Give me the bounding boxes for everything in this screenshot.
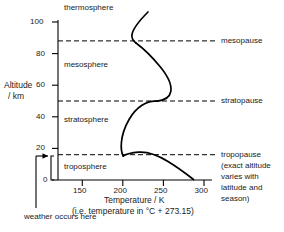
y-tick-label-20: 20 [36, 143, 45, 153]
curve-thermosphere [132, 12, 148, 43]
boundary-label-mesopause: mesopause [221, 36, 262, 46]
layer-label-troposphere: troposphere [64, 162, 107, 172]
layer-label-mesosphere: mesosphere [64, 60, 108, 70]
tropopause-note-line-3: latitude and [221, 183, 262, 193]
tropopause-note-line-4: season) [221, 194, 249, 204]
curve-stratosphere [121, 101, 157, 156]
layer-label-stratosphere: stratosphere [64, 115, 108, 125]
boundary-label-tropopause: tropopause [221, 150, 261, 160]
x-tick-label-300: 300 [195, 186, 208, 196]
curve-troposphere [123, 152, 193, 179]
x-tick-label-150: 150 [73, 186, 86, 196]
atmosphere-temperature-profile-chart: 100 80 60 40 20 0 150 200 250 300 Altitu… [0, 0, 284, 232]
y-axis-title: Altitude [4, 81, 32, 91]
y-tick-label-80: 80 [36, 49, 45, 59]
boundary-label-stratopause: stratopause [221, 96, 263, 106]
tropopause-note-line-1: (exact altitude [221, 161, 271, 171]
x-axis-title: Temperature / K [104, 196, 164, 206]
y-tick-label-60: 60 [36, 80, 45, 90]
layer-label-thermosphere: thermosphere [64, 3, 113, 13]
curve-mesosphere [136, 43, 171, 101]
y-tick-label-40: 40 [36, 112, 45, 122]
x-axis-ticks [82, 180, 204, 186]
weather-occurs-here-note: weather occurs here [24, 212, 96, 222]
y-tick-label-100: 100 [30, 17, 43, 27]
tropopause-note-line-2: varies with [221, 172, 259, 182]
weather-arrow-head [43, 153, 49, 159]
y-axis-unit: / km [8, 92, 24, 102]
y-tick-label-0: 0 [43, 175, 47, 185]
